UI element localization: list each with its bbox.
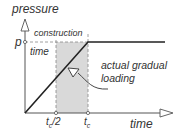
tc-tick-marker bbox=[86, 111, 89, 114]
p-tick-marker bbox=[23, 40, 26, 43]
x-axis-arrow-icon bbox=[160, 109, 173, 117]
construction-time-label: time bbox=[30, 47, 49, 57]
tick-full-label: tc bbox=[84, 117, 90, 129]
y-axis-label: pressure bbox=[12, 3, 59, 15]
construction-label: construction bbox=[34, 29, 83, 38]
p-label: p bbox=[15, 36, 22, 48]
half-tick-marker bbox=[54, 111, 57, 114]
annotation-line-1: actual gradual bbox=[101, 60, 167, 71]
tick-half-label: tc/2 bbox=[46, 117, 61, 129]
y-axis-arrow-icon bbox=[21, 19, 29, 31]
annotation-line-2: loading bbox=[101, 73, 135, 84]
x-axis-label: time bbox=[130, 118, 153, 130]
loading-diagram: pressure p construction time actual grad… bbox=[0, 0, 184, 134]
